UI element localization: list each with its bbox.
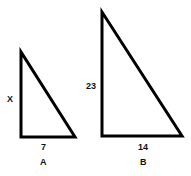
triangle-a-base-label: 7 — [41, 143, 46, 152]
triangle-b-base-label: 14 — [138, 143, 148, 152]
triangle-a-name-label: A — [40, 158, 47, 167]
similar-triangles-diagram: X 7 A 23 14 B — [0, 0, 191, 176]
triangle-b-side-label: 23 — [86, 82, 96, 91]
triangle-a-side-label: X — [7, 95, 13, 104]
triangle-b — [102, 12, 182, 136]
triangle-b-name-label: B — [140, 158, 147, 167]
triangle-a — [21, 52, 75, 137]
